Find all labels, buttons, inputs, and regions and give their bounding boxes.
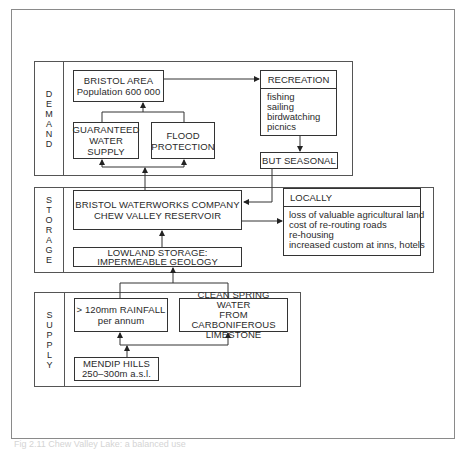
- connector-lines: [0, 0, 468, 449]
- connector-supply-to-lowland: [120, 283, 228, 298]
- figure-caption: Fig 2.11 Chew Valley Lake: a balanced us…: [14, 439, 186, 449]
- connector-seasonal-to-company: [244, 169, 272, 202]
- connector-needs-to-bristol: [102, 112, 184, 122]
